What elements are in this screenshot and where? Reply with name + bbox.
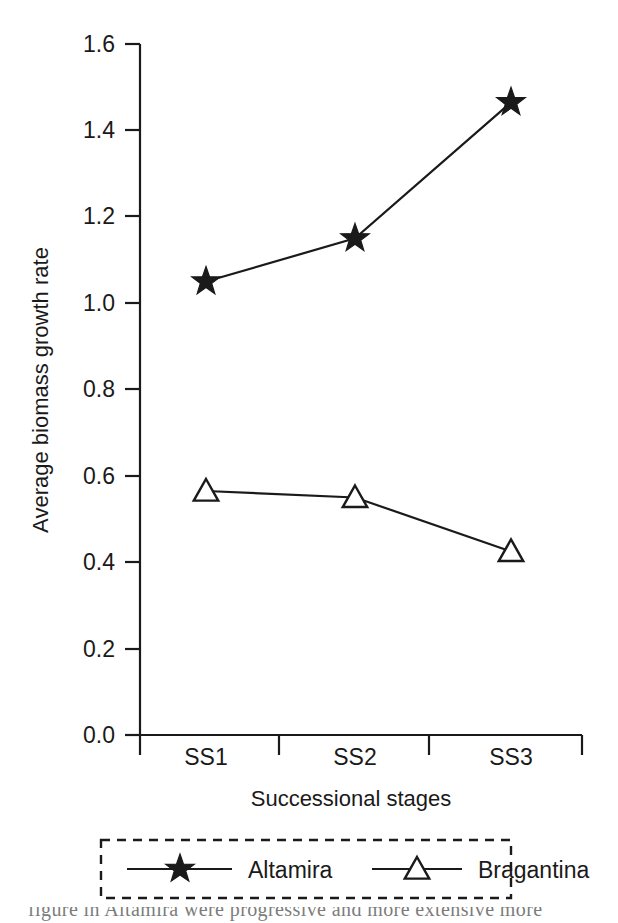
star-marker <box>166 854 195 881</box>
star-marker <box>192 267 221 294</box>
series-line-altamira <box>206 102 511 281</box>
triangle-icon <box>405 857 429 879</box>
legend: Altamira Bragantina <box>101 840 589 898</box>
caption-text: figure in Altamira were progressive and … <box>28 907 543 920</box>
legend-entry-bragantina[interactable]: Bragantina <box>372 857 589 883</box>
legend-entry-altamira[interactable]: Altamira <box>127 854 333 883</box>
plot-data-layer <box>192 87 526 561</box>
y-tick-label-0_6: 0.6 <box>83 463 115 489</box>
star-marker <box>341 223 370 250</box>
x-tick-label-ss1: SS1 <box>184 744 227 770</box>
y-axis-ticks <box>125 44 140 735</box>
x-axis-tick-labels: SS1 SS2 SS3 <box>184 744 532 770</box>
x-tick-label-ss3: SS3 <box>489 744 532 770</box>
x-tick-label-ss2: SS2 <box>333 744 376 770</box>
star-icon <box>166 854 195 881</box>
y-tick-label-0_2: 0.2 <box>83 636 115 662</box>
y-tick-label-0_0: 0.0 <box>83 722 115 748</box>
y-tick-label-1_0: 1.0 <box>83 290 115 316</box>
line-chart: 1.6 1.4 1.2 1.0 0.8 0.6 0.4 0.2 0.0 Aver… <box>0 0 618 923</box>
y-tick-label-0_4: 0.4 <box>83 549 115 575</box>
y-tick-label-1_6: 1.6 <box>83 31 115 57</box>
figure-container: 1.6 1.4 1.2 1.0 0.8 0.6 0.4 0.2 0.0 Aver… <box>0 0 618 923</box>
triangle-marker <box>194 479 218 501</box>
legend-label-bragantina: Bragantina <box>478 857 589 883</box>
y-axis-title: Average biomass growth rate <box>28 247 53 533</box>
page-caption: figure in Altamira were progressive and … <box>0 907 618 923</box>
y-tick-label-0_8: 0.8 <box>83 376 115 402</box>
y-axis-tick-labels: 1.6 1.4 1.2 1.0 0.8 0.6 0.4 0.2 0.0 <box>83 31 115 748</box>
y-tick-label-1_4: 1.4 <box>83 117 115 143</box>
triangle-marker <box>405 857 429 879</box>
legend-label-altamira: Altamira <box>248 857 333 883</box>
series-altamira <box>192 87 526 293</box>
series-bragantina <box>194 479 523 561</box>
x-axis-title: Successional stages <box>251 786 452 811</box>
triangle-marker <box>499 539 523 561</box>
y-tick-label-1_2: 1.2 <box>83 203 115 229</box>
